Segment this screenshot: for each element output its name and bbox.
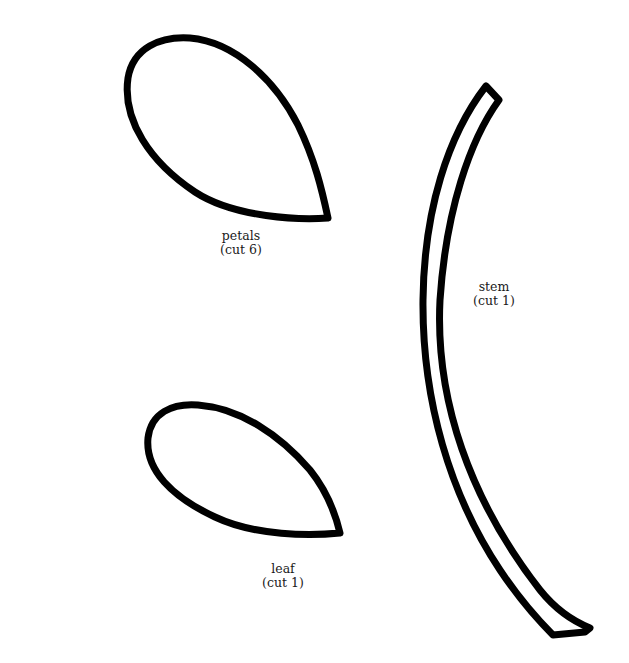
stem-label: stem	[473, 280, 515, 294]
leaf-cut-count: (cut 1)	[262, 576, 304, 590]
template-artwork	[0, 0, 629, 663]
stem-shape	[423, 86, 590, 635]
stem-cut-count: (cut 1)	[473, 294, 515, 308]
petal-shape	[127, 38, 328, 219]
petals-caption: petals (cut 6)	[220, 229, 262, 257]
petals-label: petals	[220, 229, 262, 243]
petals-cut-count: (cut 6)	[220, 243, 262, 257]
leaf-shape	[148, 405, 340, 535]
template-page: petals (cut 6) stem (cut 1) leaf (cut 1)	[0, 0, 629, 663]
stem-caption: stem (cut 1)	[473, 280, 515, 308]
leaf-caption: leaf (cut 1)	[262, 562, 304, 590]
leaf-label: leaf	[262, 562, 304, 576]
